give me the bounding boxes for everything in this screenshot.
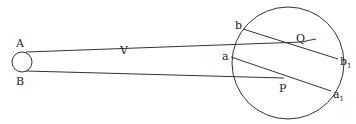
label-P: P <box>279 82 287 95</box>
ray-A-to-Q <box>26 42 302 52</box>
label-b: b <box>235 19 242 32</box>
label-a1-sub: 1 <box>340 95 344 103</box>
label-a: a <box>222 50 229 63</box>
label-A: A <box>15 37 25 50</box>
label-V: V <box>119 44 129 57</box>
ray-B-to-P <box>26 71 284 78</box>
ray-diagram: A B V b a Q P b1 a1 <box>0 0 356 124</box>
label-b1-sub: 1 <box>347 62 351 70</box>
label-b1-main: b <box>340 55 347 68</box>
object-circle <box>12 52 32 72</box>
label-a1: a1 <box>333 88 344 103</box>
label-Q: Q <box>296 32 305 45</box>
label-b1: b1 <box>340 55 352 70</box>
label-B: B <box>16 75 24 88</box>
